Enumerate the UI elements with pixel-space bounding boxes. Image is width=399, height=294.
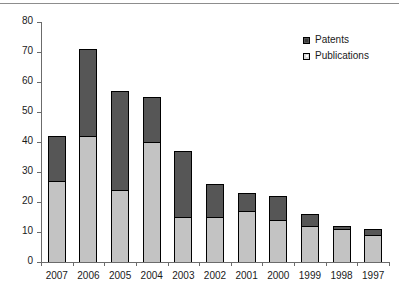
x-axis-tick-label: 2003	[168, 270, 200, 282]
bar-segment-publications[interactable]	[301, 226, 319, 262]
bar-segment-publications[interactable]	[111, 190, 129, 262]
x-axis-tick-label: 2000	[262, 270, 294, 282]
x-axis-tick-label: 2002	[199, 270, 231, 282]
bar-group[interactable]	[48, 22, 66, 262]
bar-segment-patents[interactable]	[79, 49, 97, 136]
bar-group[interactable]	[79, 22, 97, 262]
bar-stack	[111, 91, 129, 262]
bar-group[interactable]	[206, 22, 224, 262]
x-axis-tick-mark	[73, 262, 74, 266]
y-axis-tick-label: 10	[22, 225, 33, 237]
x-axis-tick-mark	[231, 262, 232, 266]
x-axis-tick-mark	[168, 262, 169, 266]
bar-segment-patents[interactable]	[48, 136, 66, 181]
legend-item-publications: Publications	[303, 49, 369, 63]
bar-segment-publications[interactable]	[238, 211, 256, 262]
bar-segment-publications[interactable]	[206, 217, 224, 262]
x-axis-tick-label: 2006	[73, 270, 105, 282]
bar-stack	[48, 136, 66, 262]
patents-swatch-icon	[303, 37, 310, 44]
x-axis-tick-mark	[326, 262, 327, 266]
bar-segment-publications[interactable]	[269, 220, 287, 262]
bar-stack	[301, 214, 319, 262]
bar-stack	[206, 184, 224, 262]
y-axis-tick-label: 60	[22, 75, 33, 87]
legend-item-patents: Patents	[303, 33, 369, 47]
x-axis-tick-mark	[357, 262, 358, 266]
bar-segment-patents[interactable]	[269, 196, 287, 220]
bar-segment-patents[interactable]	[111, 91, 129, 190]
bar-segment-publications[interactable]	[364, 235, 382, 262]
x-axis-tick-mark	[199, 262, 200, 266]
bar-segment-publications[interactable]	[48, 181, 66, 262]
bar-stack	[238, 193, 256, 262]
bar-stack	[364, 229, 382, 262]
x-axis-tick-mark	[389, 262, 390, 266]
x-axis-tick-label: 1999	[294, 270, 326, 282]
y-axis-tick-label: 70	[22, 45, 33, 57]
legend-label-publications: Publications	[315, 49, 369, 63]
y-axis-tick-label: 30	[22, 165, 33, 177]
x-axis-tick-label: 2005	[104, 270, 136, 282]
bar-stack	[79, 49, 97, 262]
x-axis-tick-label: 2001	[231, 270, 263, 282]
bar-segment-publications[interactable]	[143, 142, 161, 262]
bar-segment-patents[interactable]	[301, 214, 319, 226]
publications-swatch-icon	[303, 53, 310, 60]
bar-stack	[174, 151, 192, 262]
bar-segment-publications[interactable]	[333, 229, 351, 262]
y-axis-tick-label: 20	[22, 195, 33, 207]
bar-group[interactable]	[174, 22, 192, 262]
chart-legend: Patents Publications	[303, 33, 369, 65]
bar-group[interactable]	[238, 22, 256, 262]
legend-label-patents: Patents	[315, 33, 349, 47]
bar-segment-patents[interactable]	[238, 193, 256, 211]
x-axis-tick-mark	[136, 262, 137, 266]
bar-segment-patents[interactable]	[206, 184, 224, 217]
x-axis-tick-label: 1997	[357, 270, 389, 282]
bar-group[interactable]	[111, 22, 129, 262]
x-axis-tick-mark	[294, 262, 295, 266]
y-axis-tick-label: 0	[27, 255, 33, 267]
bar-stack	[143, 97, 161, 262]
y-axis-tick-label: 50	[22, 105, 33, 117]
bar-segment-patents[interactable]	[174, 151, 192, 217]
x-axis-tick-mark	[41, 262, 42, 266]
x-axis-tick-label: 2007	[41, 270, 73, 282]
bar-stack	[333, 226, 351, 262]
x-axis-tick-label: 1998	[326, 270, 358, 282]
y-axis-tick-label: 40	[22, 135, 33, 147]
bar-group[interactable]	[143, 22, 161, 262]
stacked-bar-chart: 01020304050607080 2007200620052004200320…	[0, 0, 399, 294]
x-axis-tick-mark	[104, 262, 105, 266]
x-axis-line	[41, 262, 389, 263]
top-divider-rule	[0, 3, 399, 4]
x-axis-tick-mark	[262, 262, 263, 266]
y-axis-tick-label: 80	[22, 15, 33, 27]
bar-group[interactable]	[269, 22, 287, 262]
x-axis-tick-label: 2004	[136, 270, 168, 282]
bar-segment-publications[interactable]	[79, 136, 97, 262]
bar-stack	[269, 196, 287, 262]
bar-segment-patents[interactable]	[143, 97, 161, 142]
bar-segment-publications[interactable]	[174, 217, 192, 262]
